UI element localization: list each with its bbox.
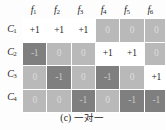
- matrix-cell: 0: [71, 42, 95, 66]
- matrix-cell: -1: [95, 66, 119, 90]
- matrix-cell: 0: [120, 19, 144, 43]
- row-header-c2: C2: [2, 41, 22, 64]
- matrix-cell: 0: [144, 19, 165, 43]
- matrix-cell: -1: [47, 66, 71, 90]
- figure-caption: (c) 一对一: [0, 110, 165, 124]
- matrix-cell: 0: [47, 42, 71, 66]
- column-header-f2: f2: [45, 2, 68, 18]
- matrix-cell: 0: [120, 66, 144, 90]
- matrix-cell: -1: [144, 89, 165, 113]
- matrix-cell: +1: [120, 42, 144, 66]
- matrix-cell: 0: [23, 66, 47, 90]
- column-header-f1: f1: [22, 2, 45, 18]
- matrix-cell: 0: [71, 66, 95, 90]
- matrix-cell: -1: [71, 89, 95, 113]
- coding-matrix: +1 +1 +1 0 0 0 -1 0 0 +1 +1 0 0 -1 0 -1 …: [22, 18, 165, 113]
- matrix-cell: +1: [47, 19, 71, 43]
- table-row: -1 0 0 +1 +1 0: [23, 42, 166, 66]
- matrix-cell: +1: [144, 66, 165, 90]
- row-header-c3: C3: [2, 63, 22, 86]
- table-row: +1 +1 +1 0 0 0: [23, 19, 166, 43]
- matrix-cell: -1: [23, 42, 47, 66]
- table-row: 0 -1 0 -1 0 +1: [23, 66, 166, 90]
- row-header-column: C1 C2 C3 C4: [2, 18, 22, 108]
- matrix-cell: 0: [23, 89, 47, 113]
- matrix-cell: +1: [23, 19, 47, 43]
- matrix-cell: +1: [71, 19, 95, 43]
- row-header-c1: C1: [2, 18, 22, 41]
- column-header-row: f1 f2 f3 f4 f5 f6: [22, 2, 162, 18]
- row-header-c4: C4: [2, 86, 22, 109]
- matrix-cell: +1: [95, 42, 119, 66]
- column-header-f4: f4: [92, 2, 115, 18]
- matrix-cell: 0: [47, 89, 71, 113]
- column-header-f5: f5: [115, 2, 138, 18]
- column-header-f6: f6: [139, 2, 162, 18]
- ecoc-coding-matrix-figure: f1 f2 f3 f4 f5 f6 C1 C2 C3 C4 +1 +1 +1 0…: [0, 0, 165, 130]
- column-header-f3: f3: [69, 2, 92, 18]
- table-row: 0 0 -1 0 -1 -1: [23, 89, 166, 113]
- matrix-cell: 0: [95, 19, 119, 43]
- matrix-cell: -1: [120, 89, 144, 113]
- matrix-cell: 0: [95, 89, 119, 113]
- matrix-cell: 0: [144, 42, 165, 66]
